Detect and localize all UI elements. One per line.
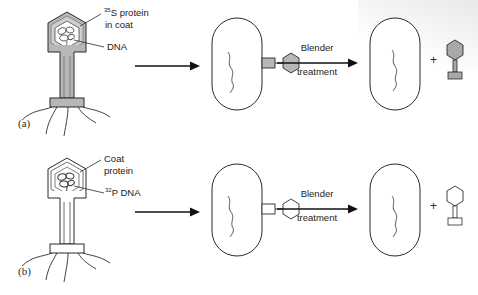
leader-line-protein-a — [80, 14, 101, 26]
panel-a: 35S protein in coat DNA Blender treatmen… — [0, 0, 478, 147]
label-p32-superscript-b: 32 — [105, 187, 112, 193]
phage-tail-fibers-a — [22, 107, 110, 136]
panel-tag-b: (b) — [18, 265, 31, 277]
phage-labeled-a — [22, 12, 110, 136]
label-s35-protein-text-a: S protein — [111, 7, 149, 18]
hershey-chase-figure: 35S protein in coat DNA Blender treatmen… — [0, 0, 478, 295]
bacterium-infected-b — [212, 164, 299, 256]
leader-line-coat-b — [80, 160, 101, 172]
arrow-infect-b — [135, 208, 200, 217]
blender-label-line1-b: Blender — [286, 188, 348, 199]
blender-label-line2-b: treatment — [286, 212, 348, 223]
label-s35-protein-a: 35S protein — [104, 7, 149, 19]
arrow-infect-a — [135, 62, 200, 71]
label-dna-a: DNA — [107, 41, 127, 53]
panel-a-graphics — [0, 0, 478, 147]
plus-sign-b: + — [430, 199, 437, 213]
panel-tag-a: (a) — [18, 117, 30, 129]
label-p32-dna-text-b: P DNA — [112, 187, 141, 198]
blender-label-line2-a: treatment — [286, 66, 348, 77]
phage-labeled-b — [22, 158, 110, 282]
phage-collar-a — [48, 45, 86, 98]
phage-collar-b — [48, 191, 86, 244]
panel-b-graphics — [0, 148, 478, 295]
bacterium-infected-a — [212, 18, 299, 110]
plus-sign-a: + — [430, 53, 437, 67]
label-s35-superscript-a: 35 — [104, 7, 111, 13]
bacterium-result-body-a — [370, 18, 420, 110]
blender-label-line1-a: Blender — [286, 42, 348, 53]
label-coat-b: Coat — [104, 153, 124, 165]
phage-baseplate-b — [50, 244, 84, 253]
bacterium-body-a — [212, 18, 262, 110]
detached-phage-ghost-a — [447, 40, 463, 79]
bacterium-result-a — [370, 18, 420, 110]
label-in-coat-a: in coat — [105, 19, 133, 31]
bacterium-body-b — [212, 164, 262, 256]
bacterium-result-b — [370, 164, 420, 256]
label-protein-b: protein — [104, 165, 133, 177]
panel-b: Coat protein 32P DNA Blender treatment +… — [0, 148, 478, 295]
bacterium-result-body-b — [370, 164, 420, 256]
phage-tail-fibers-b — [22, 253, 110, 282]
phage-baseplate-a — [50, 98, 84, 107]
detached-phage-ghost-b — [447, 186, 463, 225]
label-p32-dna-b: 32P DNA — [105, 187, 141, 199]
